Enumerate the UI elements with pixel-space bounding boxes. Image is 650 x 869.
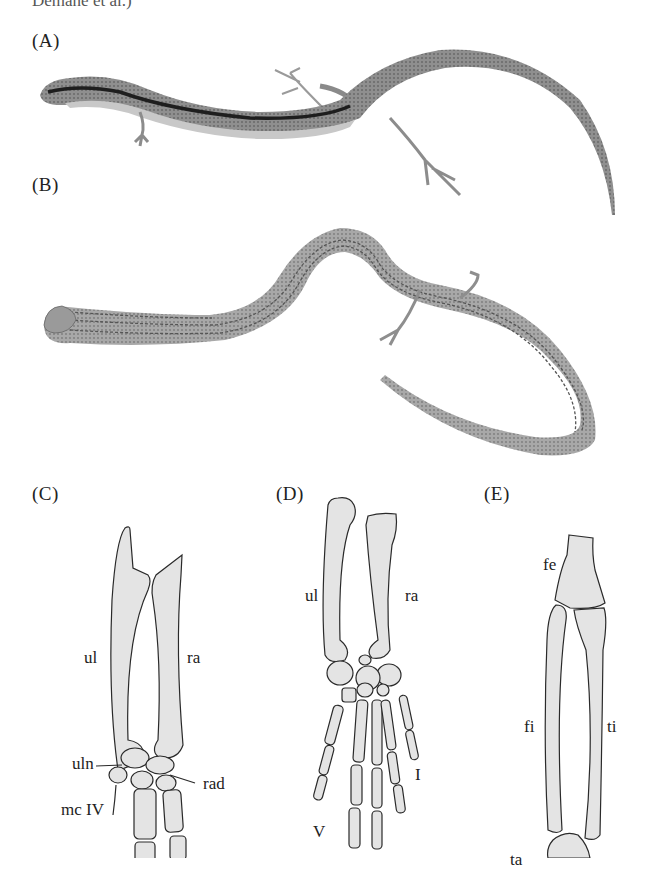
- label-ulna-c: ul: [84, 648, 97, 668]
- panel-label-d: (D): [276, 483, 304, 505]
- hindlimb-e-diagram: [545, 535, 606, 858]
- label-fibula: fi: [524, 717, 534, 737]
- label-radius-c: ra: [187, 648, 200, 668]
- panel-label-e: (E): [484, 483, 510, 505]
- panel-label-a: (A): [32, 30, 60, 52]
- forelimb-d-diagram: [313, 498, 419, 849]
- label-digit-1: I: [415, 765, 421, 785]
- forelimb-c-diagram: [96, 527, 195, 858]
- label-tarsal: ta: [510, 850, 522, 869]
- label-digit-5: V: [313, 822, 325, 842]
- lizard-b-illustration: [44, 228, 596, 455]
- lizard-a-illustration: [40, 50, 615, 215]
- panel-label-c: (C): [32, 483, 59, 505]
- label-radiale-c: rad: [203, 774, 225, 794]
- label-femur: fe: [543, 555, 556, 575]
- label-tibia: ti: [607, 717, 616, 737]
- label-ulna-d: ul: [305, 586, 318, 606]
- label-radius-d: ra: [405, 586, 418, 606]
- label-metacarpal-c: mc IV: [61, 800, 104, 820]
- label-ulnare-c: uln: [72, 754, 94, 774]
- panel-label-b: (B): [32, 174, 59, 196]
